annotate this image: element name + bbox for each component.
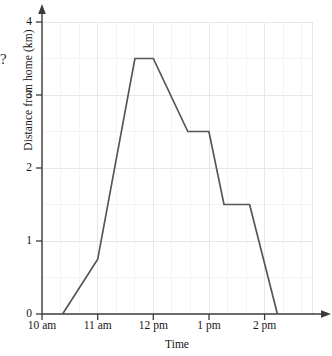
distance-time-line-chart: ? [0,0,332,356]
x-tick-label-1pm: 1 pm [179,320,239,332]
y-axis-ticks [36,22,42,314]
y-tick-label-0: 0 [10,308,32,320]
x-axis-arrowhead [321,310,331,318]
x-tick-label-11am: 11 am [68,320,128,332]
y-tick-label-1: 1 [10,235,32,247]
plot-canvas [0,0,332,356]
x-tick-label-2pm: 2 pm [235,320,295,332]
y-axis-arrowhead [38,4,46,14]
x-tick-label-12pm: 12 pm [123,320,183,332]
distance-series-line [63,59,278,315]
x-axis-title: Time [42,338,312,350]
major-gridlines [42,22,312,314]
x-tick-label-10am: 10 am [12,320,72,332]
y-axis-title: Distance from home (km) [22,0,34,190]
